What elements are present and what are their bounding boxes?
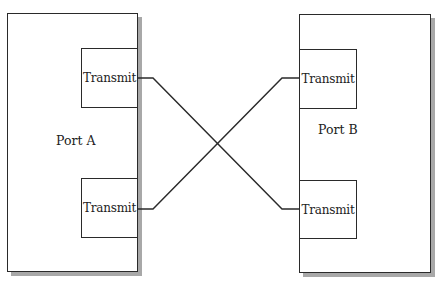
port-b-label: Port B — [318, 123, 358, 137]
transmit-label: Transmit — [83, 201, 136, 215]
port-b-transmit-bottom: Transmit — [299, 180, 357, 239]
port-b-transmit-top: Transmit — [299, 49, 357, 109]
port-a-transmit-bottom: Transmit — [81, 178, 138, 238]
port-a-transmit-top: Transmit — [81, 48, 138, 108]
wire-a-top-to-b-bottom — [137, 78, 299, 209]
transmit-label: Transmit — [83, 71, 136, 85]
port-a-label: Port A — [56, 134, 95, 148]
transmit-label: Transmit — [301, 203, 354, 217]
transmit-label: Transmit — [301, 72, 354, 86]
wire-a-bottom-to-b-top — [137, 78, 299, 209]
